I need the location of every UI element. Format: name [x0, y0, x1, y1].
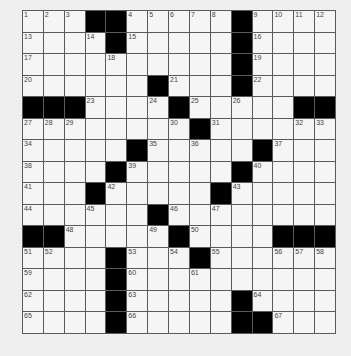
grid-cell[interactable]: 5	[148, 11, 169, 33]
grid-cell[interactable]: 38	[23, 162, 44, 184]
grid-cell[interactable]	[169, 33, 190, 55]
grid-cell[interactable]	[273, 33, 294, 55]
grid-cell[interactable]	[148, 291, 169, 313]
grid-cell[interactable]: 53	[127, 248, 148, 270]
grid-cell[interactable]	[65, 312, 86, 334]
grid-cell[interactable]	[65, 183, 86, 205]
grid-cell[interactable]	[169, 140, 190, 162]
grid-cell[interactable]	[169, 269, 190, 291]
grid-cell[interactable]	[273, 76, 294, 98]
grid-cell[interactable]: 7	[190, 11, 211, 33]
grid-cell[interactable]	[44, 269, 65, 291]
grid-cell[interactable]	[294, 33, 315, 55]
grid-cell[interactable]	[65, 205, 86, 227]
grid-cell[interactable]	[190, 312, 211, 334]
grid-cell[interactable]	[86, 291, 107, 313]
grid-cell[interactable]	[65, 54, 86, 76]
grid-cell[interactable]	[127, 97, 148, 119]
grid-cell[interactable]: 29	[65, 119, 86, 141]
grid-cell[interactable]: 21	[169, 76, 190, 98]
grid-cell[interactable]	[44, 54, 65, 76]
grid-cell[interactable]	[106, 226, 127, 248]
grid-cell[interactable]	[273, 162, 294, 184]
grid-cell[interactable]	[294, 76, 315, 98]
grid-cell[interactable]: 61	[190, 269, 211, 291]
grid-cell[interactable]: 63	[127, 291, 148, 313]
grid-cell[interactable]	[65, 269, 86, 291]
grid-cell[interactable]	[190, 205, 211, 227]
grid-cell[interactable]	[253, 205, 274, 227]
grid-cell[interactable]	[44, 33, 65, 55]
grid-cell[interactable]: 18	[106, 54, 127, 76]
grid-cell[interactable]: 40	[253, 162, 274, 184]
grid-cell[interactable]: 39	[127, 162, 148, 184]
grid-cell[interactable]	[169, 291, 190, 313]
grid-cell[interactable]	[232, 226, 253, 248]
grid-cell[interactable]: 28	[44, 119, 65, 141]
grid-cell[interactable]: 16	[253, 33, 274, 55]
grid-cell[interactable]: 67	[273, 312, 294, 334]
grid-cell[interactable]: 20	[23, 76, 44, 98]
grid-cell[interactable]: 41	[23, 183, 44, 205]
grid-cell[interactable]: 44	[23, 205, 44, 227]
grid-cell[interactable]	[127, 205, 148, 227]
grid-cell[interactable]: 32	[294, 119, 315, 141]
grid-cell[interactable]: 14	[86, 33, 107, 55]
grid-cell[interactable]	[44, 205, 65, 227]
grid-cell[interactable]	[315, 54, 336, 76]
grid-cell[interactable]	[148, 54, 169, 76]
grid-cell[interactable]	[65, 140, 86, 162]
grid-cell[interactable]	[127, 183, 148, 205]
grid-cell[interactable]: 23	[86, 97, 107, 119]
grid-cell[interactable]	[294, 162, 315, 184]
grid-cell[interactable]	[315, 76, 336, 98]
grid-cell[interactable]	[273, 269, 294, 291]
grid-cell[interactable]	[294, 269, 315, 291]
grid-cell[interactable]: 66	[127, 312, 148, 334]
grid-cell[interactable]	[65, 291, 86, 313]
grid-cell[interactable]	[294, 291, 315, 313]
grid-cell[interactable]	[315, 33, 336, 55]
grid-cell[interactable]	[315, 140, 336, 162]
grid-cell[interactable]	[211, 97, 232, 119]
grid-cell[interactable]: 13	[23, 33, 44, 55]
grid-cell[interactable]	[148, 183, 169, 205]
grid-cell[interactable]: 6	[169, 11, 190, 33]
grid-cell[interactable]	[273, 183, 294, 205]
grid-cell[interactable]	[253, 183, 274, 205]
grid-cell[interactable]	[86, 226, 107, 248]
grid-cell[interactable]	[190, 291, 211, 313]
grid-cell[interactable]: 4	[127, 11, 148, 33]
grid-cell[interactable]: 15	[127, 33, 148, 55]
grid-cell[interactable]	[106, 97, 127, 119]
grid-cell[interactable]	[148, 162, 169, 184]
grid-cell[interactable]	[253, 119, 274, 141]
grid-cell[interactable]	[148, 312, 169, 334]
grid-cell[interactable]: 65	[23, 312, 44, 334]
grid-cell[interactable]: 30	[169, 119, 190, 141]
grid-cell[interactable]	[294, 140, 315, 162]
grid-cell[interactable]	[148, 33, 169, 55]
grid-cell[interactable]	[148, 119, 169, 141]
grid-cell[interactable]	[65, 162, 86, 184]
grid-cell[interactable]	[148, 248, 169, 270]
grid-cell[interactable]	[211, 76, 232, 98]
grid-cell[interactable]: 31	[211, 119, 232, 141]
grid-cell[interactable]	[232, 119, 253, 141]
grid-cell[interactable]: 64	[253, 291, 274, 313]
grid-cell[interactable]	[253, 226, 274, 248]
grid-cell[interactable]: 59	[23, 269, 44, 291]
grid-cell[interactable]	[86, 312, 107, 334]
grid-cell[interactable]	[315, 183, 336, 205]
grid-cell[interactable]: 1	[23, 11, 44, 33]
grid-cell[interactable]	[106, 119, 127, 141]
grid-cell[interactable]	[65, 248, 86, 270]
grid-cell[interactable]	[315, 269, 336, 291]
grid-cell[interactable]: 42	[106, 183, 127, 205]
grid-cell[interactable]	[106, 140, 127, 162]
grid-cell[interactable]	[315, 205, 336, 227]
grid-cell[interactable]	[127, 226, 148, 248]
grid-cell[interactable]	[253, 97, 274, 119]
grid-cell[interactable]	[253, 269, 274, 291]
grid-cell[interactable]	[273, 54, 294, 76]
